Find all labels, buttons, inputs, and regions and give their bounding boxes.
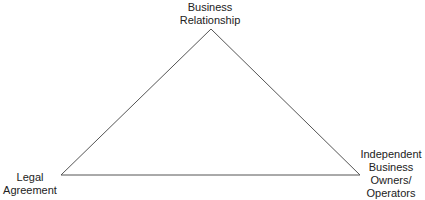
label-line: Business [356, 161, 425, 174]
label-line: Agreement [0, 184, 60, 197]
vertex-label-business-relationship: Business Relationship [160, 1, 260, 27]
edge-left [61, 29, 211, 175]
label-line: Business [160, 1, 260, 14]
label-line: Relationship [160, 14, 260, 27]
label-line: Owners/ [356, 174, 425, 187]
vertex-label-independent-business-owners: Independent Business Owners/ Operators [356, 148, 425, 200]
label-line: Independent [356, 148, 425, 161]
label-line: Operators [356, 187, 425, 200]
vertex-label-legal-agreement: Legal Agreement [0, 171, 60, 197]
label-line: Legal [0, 171, 60, 184]
edge-right [211, 29, 360, 175]
